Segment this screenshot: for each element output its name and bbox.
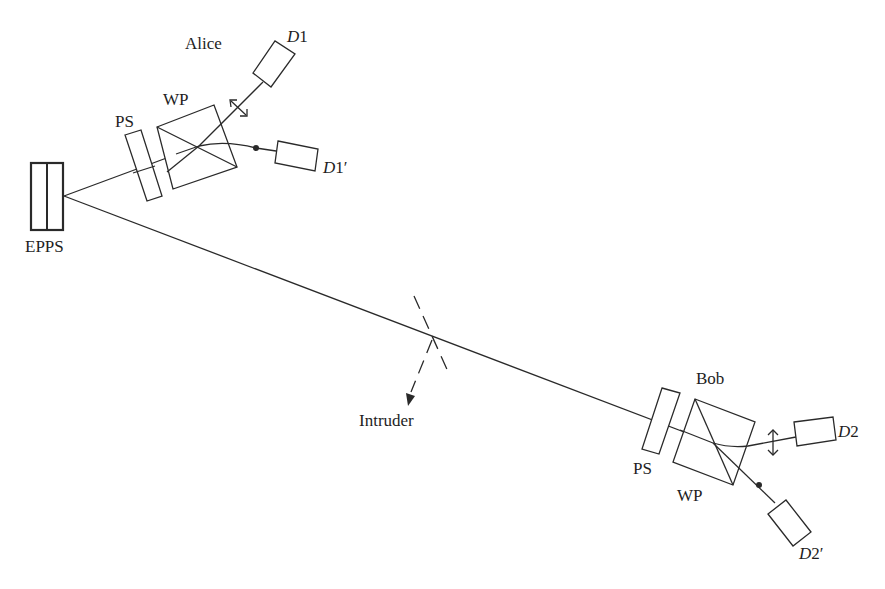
- qkd-diagram: EPPS Alice PS WP D1 D1′ Intruder Bob PS: [0, 0, 885, 589]
- bob-wp-label: WP: [677, 486, 703, 505]
- alice-wp-label: WP: [163, 90, 189, 109]
- detector-d1-prime: [275, 141, 318, 171]
- detector-d2-prime: [768, 500, 811, 546]
- epps-label: EPPS: [25, 237, 64, 256]
- bob-label: Bob: [696, 369, 724, 388]
- bob-dot-marker: [756, 482, 762, 488]
- intruder-arrowhead-icon: [406, 393, 415, 406]
- bob-ps-label: PS: [633, 459, 652, 478]
- polarization-arrow-icon: [230, 100, 247, 116]
- alice-dot-marker: [253, 145, 259, 151]
- alice-wollaston-prism: [157, 105, 237, 189]
- intruder-tap: [406, 296, 450, 406]
- beam-to-bob: [64, 196, 713, 443]
- detector-d1: [253, 41, 295, 87]
- detector-d1-prime-label: D1′: [322, 158, 348, 177]
- detector-d2-prime-label: D2′: [798, 544, 824, 563]
- bob-phase-shifter: [642, 388, 680, 454]
- detector-d1-label: D1: [286, 27, 308, 46]
- alice-phase-shifter: [125, 130, 162, 201]
- intruder-label: Intruder: [359, 411, 414, 430]
- detector-d2-label: D2: [837, 422, 859, 441]
- alice-ps-label: PS: [115, 112, 134, 131]
- epps-source: [31, 163, 63, 230]
- alice-label: Alice: [185, 34, 222, 53]
- detector-d2: [794, 417, 836, 446]
